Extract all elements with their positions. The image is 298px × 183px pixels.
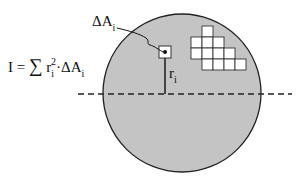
formula-sigma: ∑	[29, 55, 43, 76]
element-label-main: ΔA	[92, 13, 112, 29]
formula-r-sub: i	[51, 68, 54, 79]
formula-delta-a: ΔA	[61, 59, 81, 75]
formula-r-sup: 2	[51, 56, 56, 67]
formula: I = ∑ ri2·ΔAi	[8, 56, 84, 75]
radius-label-sub: i	[174, 74, 177, 85]
element-label: ΔAi	[92, 14, 115, 29]
diagram-canvas	[0, 0, 298, 183]
formula-equals: =	[17, 59, 25, 75]
radius-label: ri	[169, 66, 177, 81]
formula-lhs: I	[8, 59, 13, 75]
formula-delta-a-sub: i	[82, 68, 85, 79]
element-centroid-dot	[163, 50, 167, 54]
element-label-sub: i	[112, 22, 115, 33]
cross-section-circle	[103, 14, 261, 172]
